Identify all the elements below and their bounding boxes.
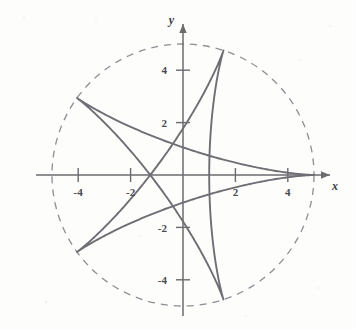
axes-group (36, 24, 330, 316)
y-tick-label--4: -4 (158, 274, 168, 286)
x-tick-label-2: 2 (233, 186, 239, 198)
figure-root: -4 -2 2 4 4 2 -2 -4 x y (0, 0, 356, 329)
x-tick-label--2: -2 (126, 186, 136, 198)
paper-texture (23, 17, 331, 317)
x-tick-label--4: -4 (74, 186, 84, 198)
y-tick-label-4: 4 (162, 64, 168, 76)
y-tick-label--2: -2 (158, 222, 168, 234)
y-axis-arrowhead (179, 24, 186, 33)
hypocycloid-plot: -4 -2 2 4 4 2 -2 -4 x y (0, 0, 356, 329)
x-axis-label: x (331, 179, 338, 193)
y-axis-label: y (167, 13, 175, 27)
y-tick-label-2: 2 (162, 117, 168, 129)
x-axis-arrowhead (321, 171, 330, 178)
x-tick-label-4: 4 (285, 186, 291, 198)
